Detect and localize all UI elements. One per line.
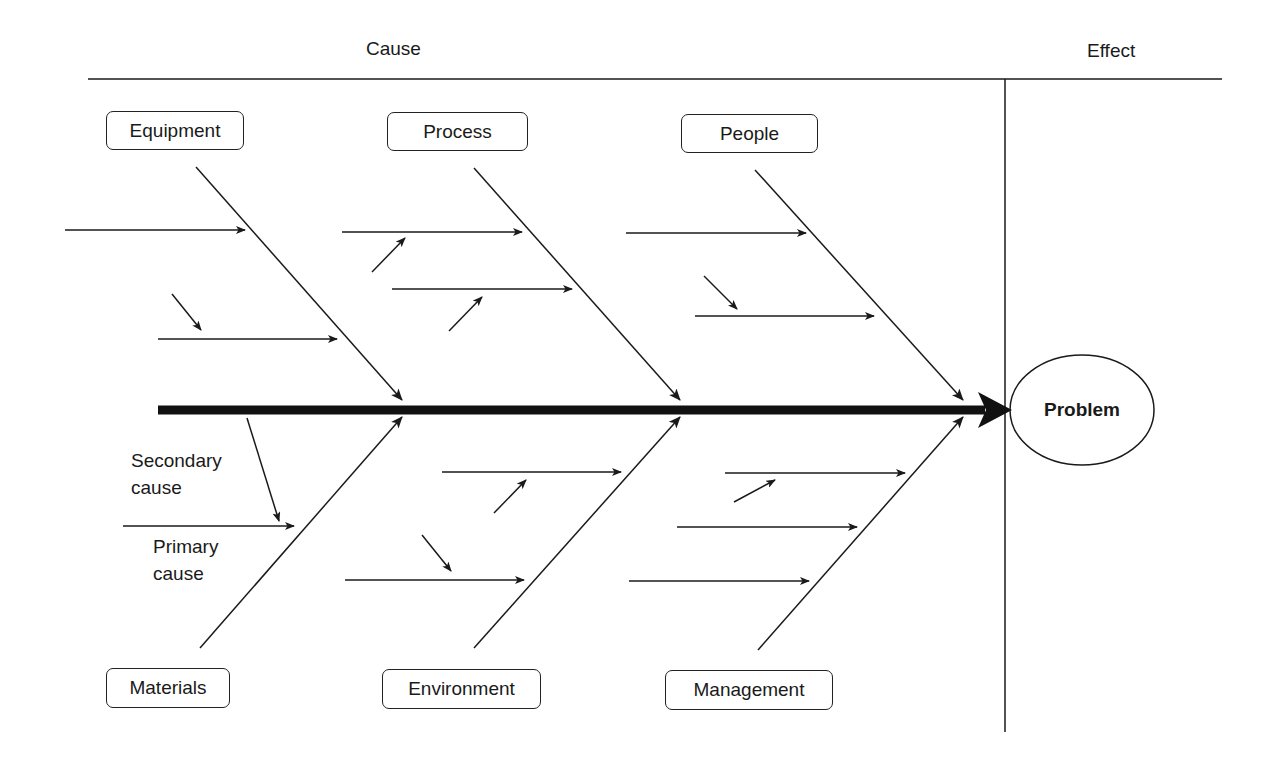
primary-cause-label: Primary cause	[153, 533, 218, 587]
cause-header: Cause	[366, 38, 421, 60]
secondary-cause-arrow	[247, 418, 279, 521]
secondary-cause-label-line1: Secondary	[131, 447, 222, 474]
bone-management	[758, 417, 963, 650]
secondary-cause-label-line2: cause	[131, 474, 222, 501]
secondary-cause-arrow	[704, 276, 737, 309]
category-process: Process	[387, 112, 528, 151]
secondary-cause-label: Secondary cause	[131, 447, 222, 501]
secondary-cause-arrow	[734, 480, 775, 502]
category-materials: Materials	[106, 668, 230, 708]
secondary-cause-arrow	[422, 535, 451, 571]
secondary-cause-arrow	[449, 297, 482, 331]
spine-arrow	[158, 392, 1012, 428]
bone-people	[755, 170, 963, 400]
problem-label: Problem	[1044, 399, 1120, 421]
effect-header: Effect	[1087, 40, 1135, 62]
category-people: People	[681, 114, 818, 153]
bone-process	[474, 168, 680, 400]
bone-materials	[200, 417, 402, 648]
bone-equipment	[196, 167, 402, 400]
primary-cause-label-line1: Primary	[153, 533, 218, 560]
category-equipment: Equipment	[106, 111, 244, 150]
category-environment: Environment	[382, 669, 541, 709]
secondary-cause-arrow	[372, 238, 405, 272]
category-management: Management	[665, 670, 833, 710]
primary-cause-label-line2: cause	[153, 560, 218, 587]
secondary-cause-arrow	[172, 294, 201, 330]
secondary-cause-arrow	[494, 480, 526, 513]
bone-environment	[474, 417, 680, 648]
